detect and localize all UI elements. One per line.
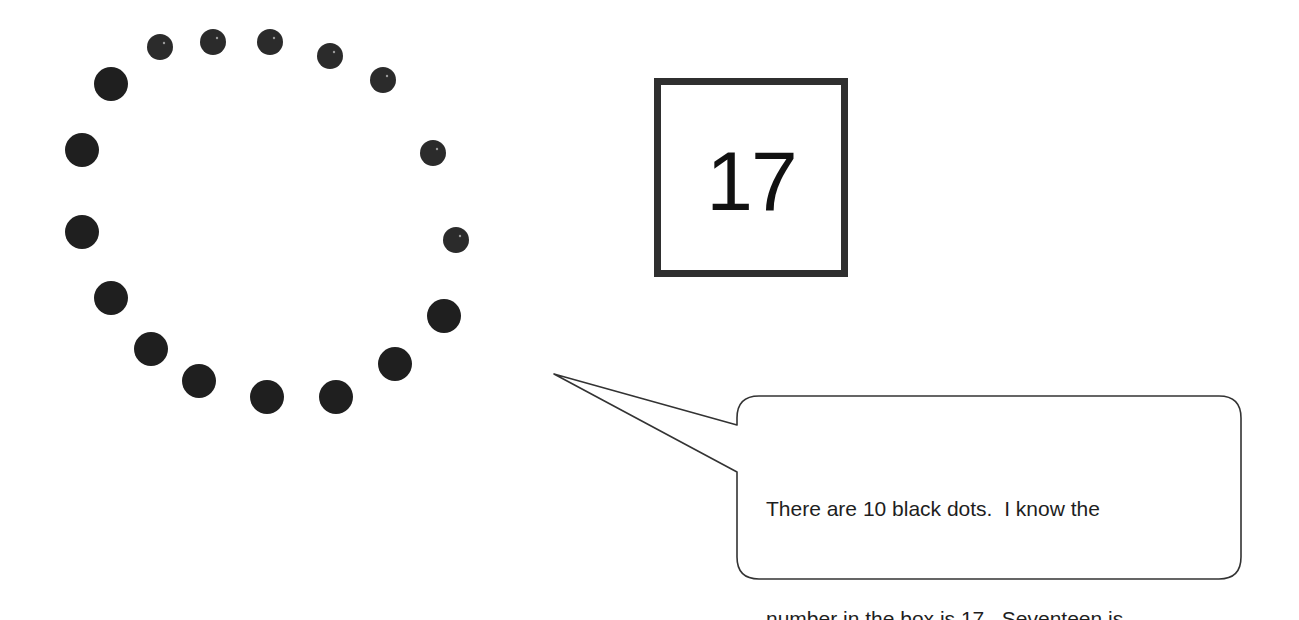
black-dots-group: [65, 67, 461, 414]
drawn-circle: [257, 29, 283, 55]
speech-bubble-text: There are 10 black dots. I know the numb…: [766, 418, 1226, 620]
black-dot: [65, 133, 99, 167]
speech-line-1: There are 10 black dots. I know the: [766, 491, 1226, 528]
speech-line-2: number in the box is 17. Seventeen is: [766, 601, 1226, 620]
drawn-circle: [317, 43, 343, 69]
black-dot: [65, 215, 99, 249]
drawn-circle: [370, 67, 396, 93]
black-dot: [378, 347, 412, 381]
drawn-circle: [443, 227, 469, 253]
number-box-value: 17: [706, 139, 795, 223]
black-dot: [319, 380, 353, 414]
black-dot: [182, 364, 216, 398]
black-dot: [134, 332, 168, 366]
drawn-circle: [420, 140, 446, 166]
drawn-circles-group: [147, 29, 469, 253]
drawn-circle: [200, 29, 226, 55]
number-box: 17: [654, 78, 848, 277]
black-dot: [94, 281, 128, 315]
drawn-circle: [147, 34, 173, 60]
black-dot: [94, 67, 128, 101]
black-dot: [427, 299, 461, 333]
black-dot: [250, 380, 284, 414]
